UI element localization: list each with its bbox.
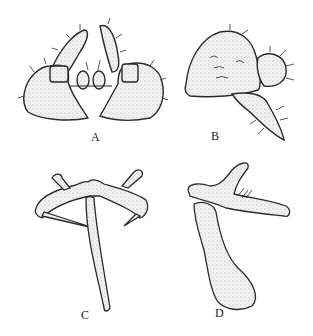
scientific-figure: A B C D bbox=[0, 0, 313, 336]
figure-drawing bbox=[0, 0, 313, 336]
panel-label-c: C bbox=[81, 308, 89, 323]
panel-label-d: D bbox=[215, 306, 224, 321]
panel-d-drawing bbox=[188, 163, 290, 310]
panel-a-drawing bbox=[18, 18, 168, 120]
panel-b-drawing bbox=[185, 24, 294, 140]
panel-label-b: B bbox=[211, 129, 219, 144]
panel-c-drawing bbox=[35, 170, 147, 311]
panel-label-a: A bbox=[91, 130, 100, 145]
